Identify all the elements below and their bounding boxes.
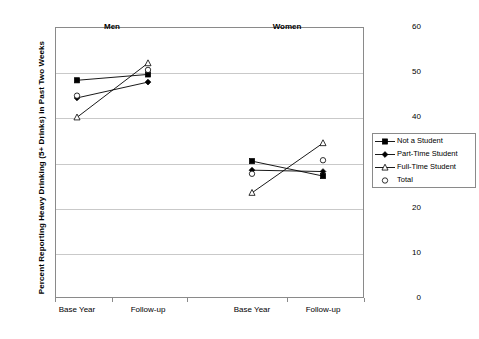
legend-item[interactable]: Not a Student <box>373 134 475 147</box>
x-tick-2 <box>187 298 188 302</box>
y-axis-title: Percent Reporting Heavy Drinking (5+ Dri… <box>37 23 46 313</box>
legend-item-label: Full-Time Student <box>397 163 456 171</box>
legend-item-label: Total <box>397 176 413 184</box>
filled-diamond-icon <box>373 147 397 160</box>
x-tick-label-0: Base Year <box>37 305 117 314</box>
gridline-50 <box>56 73 363 74</box>
x-tick-label-1: Follow-up <box>108 305 188 314</box>
legend-item-label: Not a Student <box>397 137 443 145</box>
legend-item[interactable]: Total <box>373 173 475 186</box>
chart-container: Percent Reporting Heavy Drinking (5+ Dri… <box>0 0 479 339</box>
legend-item[interactable]: Full-Time Student <box>373 160 475 173</box>
gridline-30 <box>56 164 363 165</box>
y-tick-label-50: 50 <box>381 68 421 76</box>
y-tick-label-10: 10 <box>381 249 421 257</box>
legend-item[interactable]: Part-Time Student <box>373 147 475 160</box>
x-tick-4 <box>364 298 365 302</box>
x-tick-label-2: Base Year <box>212 305 292 314</box>
open-triangle-icon <box>373 160 397 173</box>
x-tick-1 <box>112 298 113 302</box>
gridline-10 <box>56 254 363 255</box>
legend: Not a StudentPart-Time StudentFull-Time … <box>372 133 476 188</box>
y-tick-label-0: 0 <box>381 294 421 302</box>
plot-area <box>55 27 364 298</box>
x-tick-label-3: Follow-up <box>283 305 363 314</box>
y-tick-label-40: 40 <box>381 113 421 121</box>
gridline-40 <box>56 118 363 119</box>
x-tick-3 <box>287 298 288 302</box>
open-circle-icon <box>373 173 397 186</box>
legend-item-label: Part-Time Student <box>397 150 458 158</box>
panel-label-women: Women <box>247 22 327 31</box>
y-tick-label-20: 20 <box>381 204 421 212</box>
y-tick-label-60: 60 <box>381 23 421 31</box>
panel-label-men: Men <box>72 22 152 31</box>
filled-square-icon <box>373 134 397 147</box>
gridline-20 <box>56 209 363 210</box>
x-tick-0 <box>55 298 56 302</box>
